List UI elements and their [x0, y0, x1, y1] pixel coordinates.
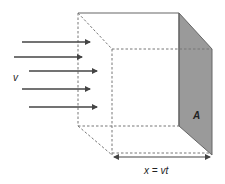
area-label: A — [192, 110, 200, 121]
velocity-arrows — [14, 42, 97, 107]
distance-label: x = vt — [143, 165, 169, 176]
area-face-a — [179, 13, 212, 155]
box-solid-edges — [78, 13, 179, 126]
velocity-label: v — [13, 72, 19, 83]
flux-box-diagram: v A x = vt — [0, 0, 225, 184]
